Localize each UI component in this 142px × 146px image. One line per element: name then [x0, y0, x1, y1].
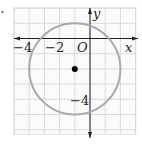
y-tick-label-neg4: −4	[70, 93, 89, 108]
x-axis-label: x	[125, 40, 133, 55]
problem-bullet	[1, 11, 3, 13]
center-point	[72, 66, 78, 72]
y-axis-label: y	[92, 6, 101, 21]
x-tick-label-neg4: −4	[13, 40, 32, 55]
y-axis-down-arrow-icon	[88, 132, 92, 138]
x-tick-label-neg2: −2	[45, 40, 64, 55]
origin-label: O	[77, 40, 88, 55]
coordinate-plane: −4 −2 O x y −4	[0, 0, 142, 146]
